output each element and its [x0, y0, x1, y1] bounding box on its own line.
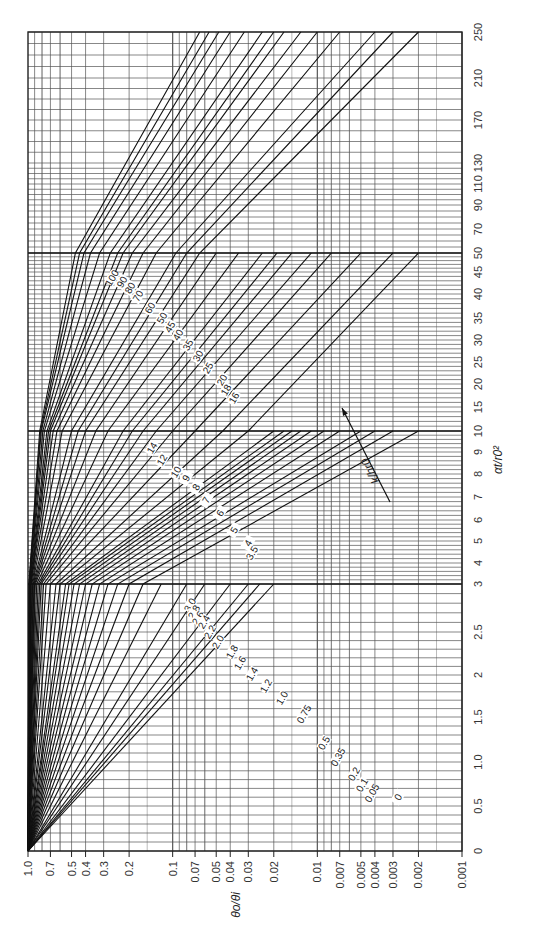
curve-label: 0.75 — [294, 702, 313, 725]
k-hr0-label: k/hr0 — [358, 455, 383, 485]
curve-k-hr0-9 — [28, 253, 277, 851]
y-tick-label: 0 — [472, 848, 484, 854]
x-tick-label: 1.0 — [22, 861, 34, 876]
y-tick-label: 2 — [472, 672, 484, 678]
y-tick-label: 170 — [472, 111, 484, 129]
curve-k-hr0-2_8 — [28, 431, 284, 851]
curve-label: 30 — [190, 348, 205, 364]
x-tick-label: 0.7 — [44, 861, 56, 876]
plot-frame — [28, 32, 462, 851]
curve-k-hr0-0_75 — [28, 584, 161, 851]
y-tick-label: 210 — [472, 69, 484, 87]
x-tick-label: 0.002 — [412, 861, 424, 889]
x-tick-label: 0.01 — [311, 861, 323, 882]
x-tick-label: 0.05 — [210, 861, 222, 882]
curve-k-hr0-16 — [28, 32, 419, 851]
y-tick-label: 130 — [472, 154, 484, 172]
y-tick-label: 9 — [472, 449, 484, 455]
curve-k-hr0-2_0 — [28, 431, 324, 851]
y-tick-label: 25 — [472, 356, 484, 368]
curve-k-hr0-2_6 — [28, 431, 292, 851]
curve-label: 14 — [144, 440, 159, 456]
y-axis-title: αt/r0² — [491, 445, 505, 474]
x-tick-label: 0.001 — [456, 861, 468, 889]
y-tick-label: 8 — [472, 471, 484, 477]
x-tick-label: 0.003 — [387, 861, 399, 889]
y-tick-label: 4 — [472, 560, 484, 566]
x-tick-label: 0.005 — [355, 861, 367, 889]
y-tick-label: 35 — [472, 312, 484, 324]
curve-k-hr0-40 — [28, 32, 284, 851]
y-tick-label: 1.5 — [472, 709, 484, 724]
curve-label: 1.4 — [244, 665, 261, 683]
y-tick-label: 0.5 — [472, 798, 484, 813]
x-tick-label: 0.2 — [123, 861, 135, 876]
y-tick-label: 3 — [472, 581, 484, 587]
curve-k-hr0-7 — [28, 253, 311, 851]
curve-k-hr0-0_35 — [28, 584, 205, 851]
grid-major — [28, 32, 462, 851]
y-tick-label: 30 — [472, 334, 484, 346]
x-tick-label: 0.3 — [98, 861, 110, 876]
y-tick-label: 6 — [472, 517, 484, 523]
curve-k-hr0-80 — [28, 32, 219, 851]
x-axis-title-text: θo/θi — [229, 892, 243, 918]
x-tick-label: 0.02 — [268, 861, 280, 882]
y-tick-label: 20 — [472, 378, 484, 390]
y-axis-title-text: αt/r0² — [491, 445, 505, 474]
y-tick-label: 90 — [472, 199, 484, 211]
y-tick-label: 5 — [472, 538, 484, 544]
grid-minor — [28, 32, 462, 851]
y-tick-label: 110 — [472, 175, 484, 193]
x-tick-label: 0.5 — [66, 861, 78, 876]
curve-k-hr0-100 — [28, 32, 200, 851]
y-tick-label: 7 — [472, 494, 484, 500]
x-tick-label: 0.03 — [242, 861, 254, 882]
curve-k-hr0-0_1 — [28, 584, 248, 851]
x-tick-label: 0.007 — [334, 861, 346, 889]
x-tick-label: 0.004 — [369, 861, 381, 889]
y-tick-label: 40 — [472, 288, 484, 300]
y-tick-label: 50 — [472, 247, 484, 259]
x-tick-label: 0.4 — [80, 861, 92, 876]
y-tick-label: 1.0 — [472, 754, 484, 769]
y-axis-ticks: 00.51.01.522.534567891015202530354045507… — [472, 23, 484, 854]
curve-k-hr0-18 — [28, 32, 393, 851]
heisler-chart: 1009080706050454035302520181614121098765… — [0, 0, 547, 932]
x-axis-title: θo/θi — [229, 892, 243, 918]
y-tick-label: 250 — [472, 23, 484, 41]
curve-k-hr0-2_4 — [28, 431, 301, 851]
curve-k-hr0-0 — [28, 584, 274, 851]
y-tick-label: 70 — [472, 223, 484, 235]
x-tick-label: 0.1 — [167, 861, 179, 876]
curves — [28, 32, 419, 851]
x-axis-ticks: 1.00.70.50.40.30.20.10.070.050.040.030.0… — [22, 851, 468, 889]
x-tick-label: 0.07 — [189, 861, 201, 882]
curve-label: 25 — [200, 360, 215, 376]
y-tick-label: 10 — [472, 425, 484, 437]
y-tick-label: 15 — [472, 401, 484, 413]
x-tick-label: 0.04 — [224, 861, 236, 882]
curve-k-hr0-1_8 — [28, 431, 340, 851]
curve-label: 0.5 — [316, 734, 333, 752]
curve-k-hr0-50 — [28, 32, 262, 851]
y-tick-label: 45 — [472, 266, 484, 278]
y-tick-label: 2.5 — [472, 624, 484, 639]
curve-label: 35 — [180, 337, 195, 353]
